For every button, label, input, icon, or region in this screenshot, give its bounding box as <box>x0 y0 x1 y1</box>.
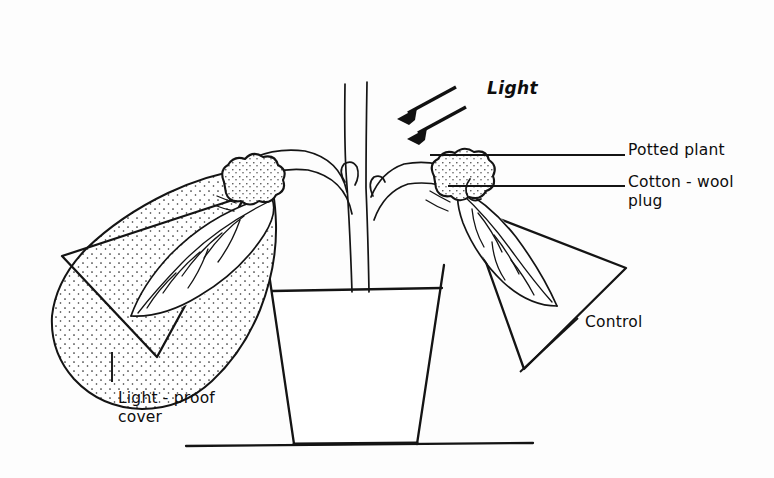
right-leaf <box>458 188 557 306</box>
label-light-proof-line1: Light - proof <box>72 389 215 408</box>
light-ray-upper-arrow <box>397 87 456 125</box>
flower-pot <box>268 265 444 444</box>
label-potted-plant: Potted plant <box>628 141 725 160</box>
label-light: Light <box>487 78 538 99</box>
label-light-proof-cover: Light - proofcover <box>72 389 215 427</box>
label-light-proof-line2: cover <box>72 408 215 427</box>
label-cotton-wool-line1: Cotton - wool <box>628 173 734 192</box>
label-cotton-wool-plug: Cotton - woolplug <box>628 173 734 211</box>
label-cotton-wool-line2: plug <box>628 192 734 211</box>
leader-control <box>520 318 578 372</box>
diagram-figure: Light Potted plant Cotton - woolplug Con… <box>0 0 774 478</box>
label-control: Control <box>585 313 642 332</box>
